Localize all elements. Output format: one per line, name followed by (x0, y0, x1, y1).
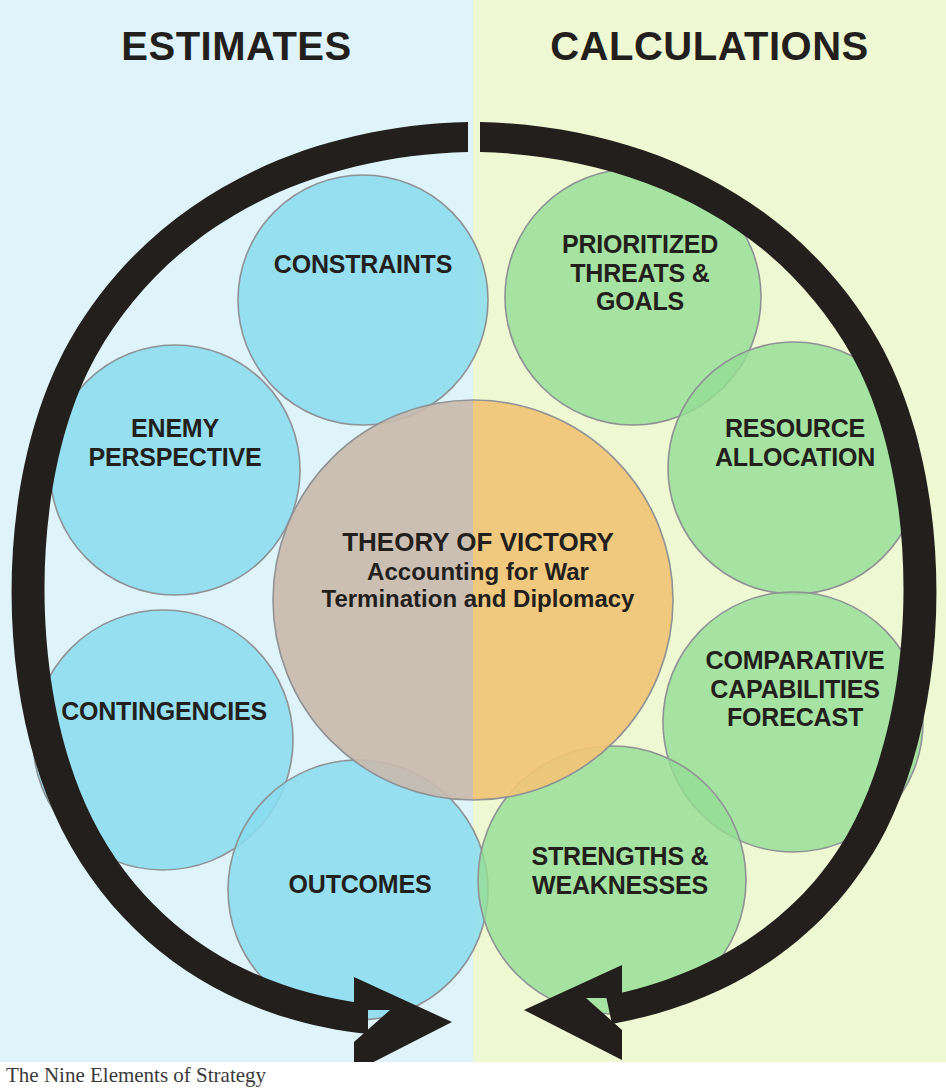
core-circle (273, 400, 673, 800)
circle-constraints (238, 175, 488, 425)
figure-caption: The Nine Elements of Strategy (0, 1062, 946, 1090)
figure-caption-text: The Nine Elements of Strategy (6, 1063, 266, 1088)
diagram-artwork (0, 0, 946, 1090)
circle-enemy (50, 345, 300, 595)
diagram-canvas: ESTIMATES CALCULATIONS (0, 0, 946, 1090)
